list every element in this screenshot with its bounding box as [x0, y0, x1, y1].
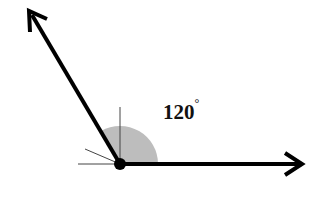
angle-diagram	[0, 0, 323, 201]
vertex-point	[114, 158, 126, 170]
angle-label: 120°	[163, 100, 199, 125]
ray-left	[32, 15, 120, 164]
